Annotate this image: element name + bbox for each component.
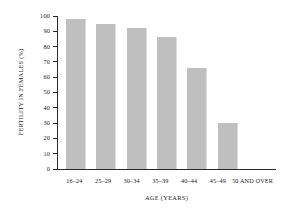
fertility-bar-chart: FERTILITY IN FEMALES (%) 100908070605040… xyxy=(0,0,297,213)
x-axis-tick-label: 45–49 xyxy=(203,177,232,184)
y-axis-tick-label: 100 xyxy=(40,13,50,19)
bar[interactable] xyxy=(218,123,238,169)
bar[interactable] xyxy=(96,24,116,169)
plot-area: 1009080706050403020100 xyxy=(57,17,276,170)
bar-slot xyxy=(243,17,273,169)
x-axis-tick-label: 40–44 xyxy=(175,177,204,184)
x-axis-title: AGE (YEARS) xyxy=(57,194,276,201)
x-axis-tick-labels: 16–2425–2930–3435–3940–4445–4950 AND OVE… xyxy=(57,177,276,184)
y-axis-tick-label: 20 xyxy=(43,136,50,142)
bar-slot xyxy=(91,17,121,169)
bar[interactable] xyxy=(187,68,207,169)
y-axis-tick-label: 60 xyxy=(43,74,50,80)
bar-slot xyxy=(182,17,212,169)
bar[interactable] xyxy=(127,28,147,169)
x-axis-tick-label: 16–24 xyxy=(60,177,89,184)
bar-slot xyxy=(212,17,242,169)
y-axis-tick-label: 50 xyxy=(43,90,50,96)
y-axis-title: FERTILITY IN FEMALES (%) xyxy=(14,14,28,170)
y-axis-tick-label: 70 xyxy=(43,59,50,65)
y-axis-tick-label: 90 xyxy=(43,28,50,34)
bar[interactable] xyxy=(66,19,86,169)
bar-slot xyxy=(152,17,182,169)
bar[interactable] xyxy=(157,37,177,169)
bar-slot xyxy=(122,17,152,169)
x-axis-tick-label: 25–29 xyxy=(89,177,118,184)
y-axis-tick-label: 0 xyxy=(47,166,50,172)
x-axis-tick-label: 30–34 xyxy=(117,177,146,184)
y-axis-tick-label: 40 xyxy=(43,105,50,111)
bars-layer xyxy=(58,17,276,169)
x-axis-tick-label: 35–39 xyxy=(146,177,175,184)
y-axis-tick-label: 30 xyxy=(43,120,50,126)
y-axis-tick-label: 10 xyxy=(43,151,50,157)
y-axis-tick-label: 80 xyxy=(43,44,50,50)
bar-slot xyxy=(61,17,91,169)
x-axis-tick-label: 50 AND OVER xyxy=(232,177,273,184)
